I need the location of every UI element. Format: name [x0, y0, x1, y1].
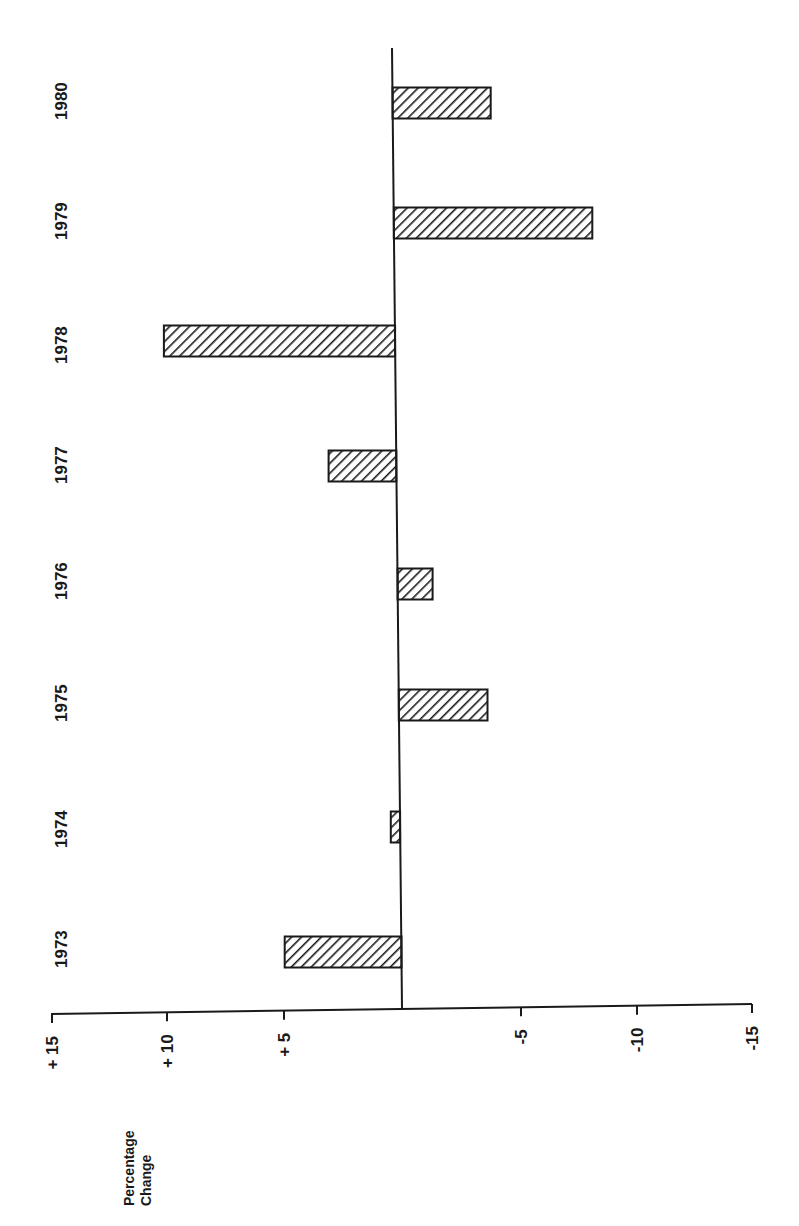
category-label-1980: 1980	[52, 82, 71, 120]
category-labels: 19731974197519761977197819791980	[52, 82, 71, 968]
bar-1978	[164, 326, 395, 357]
bar-chart: + 15+ 10+ 5-5-10-15 19731974197519761977…	[0, 0, 799, 1226]
bar-1973	[285, 937, 402, 968]
category-label-1975: 1975	[52, 684, 71, 722]
tick-label: + 15	[43, 1036, 62, 1070]
tick-label: -5	[512, 1029, 531, 1044]
bar-1979	[394, 208, 593, 239]
category-label-1978: 1978	[52, 326, 71, 364]
tick-label: -15	[743, 1026, 762, 1051]
category-label-1973: 1973	[52, 930, 71, 968]
axis-title: Percentage Change	[121, 1130, 154, 1206]
bar-1977	[329, 451, 397, 482]
category-label-1976: 1976	[52, 562, 71, 600]
category-label-1974: 1974	[52, 810, 71, 848]
axis-title-line1: Percentage	[121, 1130, 137, 1206]
category-label-1979: 1979	[52, 202, 71, 240]
bar-1980	[393, 88, 491, 119]
tick-label: -10	[628, 1028, 647, 1053]
tick-label: + 10	[158, 1034, 177, 1068]
bar-1976	[398, 569, 433, 600]
bar-1975	[399, 690, 488, 721]
zero-baseline	[392, 48, 402, 1008]
tick-label: + 5	[275, 1033, 294, 1057]
axis-title-line2: Change	[138, 1154, 154, 1206]
category-label-1977: 1977	[52, 446, 71, 484]
bars-group	[164, 88, 592, 968]
value-axis-ticks: + 15+ 10+ 5-5-10-15	[43, 1004, 762, 1070]
bar-1974	[391, 812, 400, 843]
